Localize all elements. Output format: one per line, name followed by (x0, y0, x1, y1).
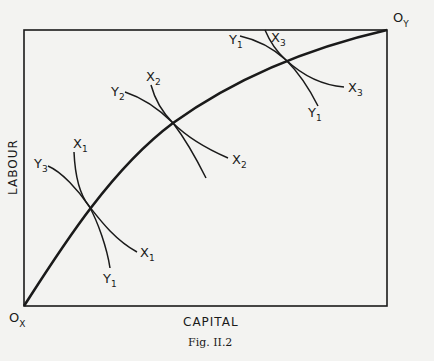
edgeworth-box-frame (24, 30, 387, 306)
x-axis-label: CAPITAL (183, 315, 239, 329)
label-x2-end: X2 (232, 152, 247, 170)
isoquant-x1 (74, 152, 137, 252)
contract-curve (24, 30, 387, 306)
label-y1-lower: Y1 (102, 271, 117, 289)
y-axis-label: LABOUR (6, 139, 20, 195)
label-y2: Y2 (110, 84, 125, 102)
origin-y-label: OY (393, 10, 409, 29)
edgeworth-box-diagram: OX OY LABOUR CAPITAL Fig. II.2 X1 Y3 X1 … (0, 0, 434, 361)
label-y1-end: Y1 (307, 105, 322, 123)
figure-caption: Fig. II.2 (188, 336, 232, 349)
label-x3-end: X3 (348, 80, 363, 98)
label-x2-top: X2 (146, 69, 161, 87)
origin-x-label: OX (9, 310, 25, 329)
isoquant-y3 (48, 166, 110, 268)
label-y3: Y3 (33, 156, 48, 174)
isoquant-y2 (125, 92, 206, 178)
label-x1-top: X1 (73, 136, 88, 154)
label-y1-top: Y1 (228, 32, 243, 50)
label-x1-end: X1 (140, 245, 155, 263)
